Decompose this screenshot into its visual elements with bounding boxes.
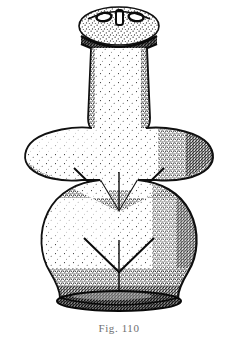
figurine-neck [80, 40, 160, 140]
figure-plate: Fig. 110 [0, 0, 238, 346]
figurine-arms [18, 122, 222, 212]
figurine-illustration [0, 0, 238, 346]
figure-caption: Fig. 110 [0, 322, 238, 335]
